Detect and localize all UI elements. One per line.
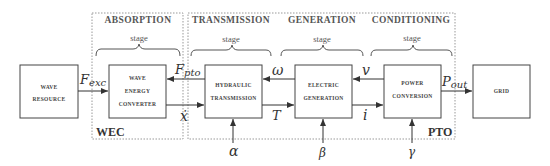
block-hydraulic-transmission: HYDRAULIC TRANSMISSION (205, 65, 262, 118)
svg-text:HYDRAULIC: HYDRAULIC (215, 82, 252, 88)
stage-title-conditioning: CONDITIONING (372, 15, 451, 25)
stage-title-generation: GENERATION (288, 15, 356, 25)
wave-energy-pto-diagram: ABSORPTION TRANSMISSION GENERATION CONDI… (0, 0, 550, 166)
svg-text:GENERATION: GENERATION (303, 95, 343, 101)
svg-text:ELECTRIC: ELECTRIC (308, 82, 339, 88)
brace-absorption (96, 44, 180, 56)
label-beta: β (318, 146, 326, 160)
svg-text:GRID: GRID (494, 88, 510, 94)
brace-generation (281, 45, 363, 56)
stage-title-transmission: TRANSMISSION (192, 15, 270, 25)
region-label-wec: WEC (96, 125, 125, 139)
svg-text:ENERGY: ENERGY (125, 88, 150, 94)
label-torque: T (272, 108, 282, 123)
svg-text:POWER: POWER (401, 80, 424, 86)
brace-conditioning (371, 45, 452, 56)
label-gamma: γ (408, 145, 416, 159)
stage-title-absorption: ABSORPTION (105, 15, 172, 25)
label-current: i (363, 107, 367, 123)
svg-text:TRANSMISSION: TRANSMISSION (210, 95, 256, 101)
block-wave-resource: WAVE RESOURCE (20, 65, 78, 118)
label-voltage: v (362, 62, 370, 78)
svg-text:WAVE: WAVE (129, 75, 146, 81)
brace-transmission (191, 45, 271, 56)
svg-text:RESOURCE: RESOURCE (33, 96, 66, 102)
svg-text:CONVERSION: CONVERSION (392, 93, 432, 99)
block-power-conversion: POWER CONVERSION (384, 65, 441, 118)
block-electric-generation: ELECTRIC GENERATION (295, 65, 352, 118)
label-omega: ω (272, 62, 284, 78)
label-f-exc: Fexc (79, 72, 107, 88)
stage-sub-transmission: stage (222, 34, 240, 44)
block-grid: GRID (473, 65, 530, 118)
label-x-dot: ẋ (180, 108, 188, 124)
svg-text:CONVERTER: CONVERTER (119, 101, 157, 107)
stage-sub-conditioning: stage (403, 33, 421, 43)
region-label-pto: PTO (428, 125, 452, 139)
label-alpha: α (229, 143, 239, 159)
stage-sub-generation: stage (313, 34, 331, 44)
block-wave-energy-converter: WAVE ENERGY CONVERTER (109, 65, 166, 118)
label-f-pto: Fpto (174, 62, 200, 78)
stage-sub-absorption: stage (130, 33, 148, 43)
svg-text:WAVE: WAVE (41, 84, 58, 90)
